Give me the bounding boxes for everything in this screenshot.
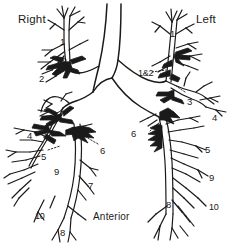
- right-segment-3-shading: [40, 106, 74, 126]
- leader-right-5: [48, 146, 60, 150]
- left-main-bronchus: [112, 60, 166, 117]
- left-shading-upper: [156, 90, 184, 104]
- bronchial-tree-drawing: [0, 0, 234, 249]
- bronchial-tree-figure: Right Left Anterior 1 2 3 4 5 6 7 8 9 10…: [0, 0, 234, 249]
